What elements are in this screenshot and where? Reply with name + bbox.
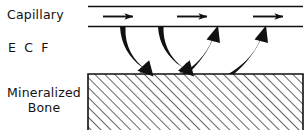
figure-canvas: Capillary E C F MineralizedBone bbox=[0, 0, 306, 138]
mineralized-bone-block bbox=[88, 74, 303, 130]
efflux-arrow-2-head bbox=[255, 26, 269, 44]
diagram-graphic bbox=[0, 0, 306, 138]
efflux-arrow-1-head bbox=[207, 26, 221, 44]
